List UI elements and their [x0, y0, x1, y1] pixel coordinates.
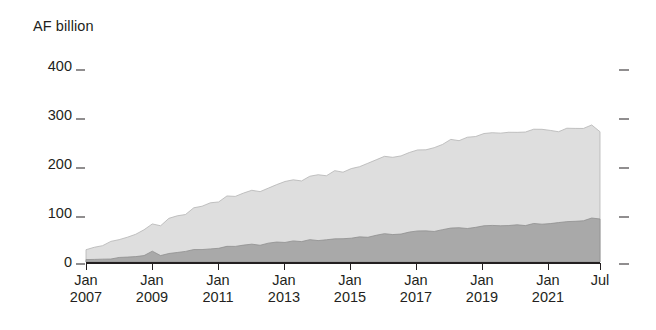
x-tick-mark-2019 [482, 263, 483, 270]
x-tick-mark-2013 [284, 263, 285, 270]
x-tick-mark-jul [600, 263, 601, 270]
x-tick-mark-2011 [218, 263, 219, 270]
x-tick-mark-2021 [548, 263, 549, 270]
x-tick-mark-2017 [416, 263, 417, 270]
x-tick-mark-2015 [350, 263, 351, 270]
stacked-area-chart: AF billion 400 300 200 100 0 Jan 2007 [0, 0, 656, 330]
x-tick-year: 2021 [508, 289, 588, 306]
x-tick-label-jul: Jul [560, 272, 640, 289]
x-tick-mark-2009 [152, 263, 153, 270]
x-tick-mark-2007 [86, 263, 87, 270]
x-tick-month: Jul [560, 272, 640, 289]
